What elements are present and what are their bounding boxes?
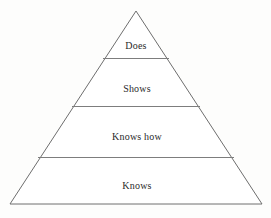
pyramid-graphic (0, 0, 271, 218)
pyramid-outline-shape (10, 11, 262, 204)
competence-pyramid-figure: Does Shows Knows how Knows (0, 0, 271, 218)
